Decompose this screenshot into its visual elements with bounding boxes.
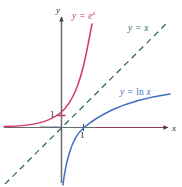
curve-label-log-prefix: y = <box>120 87 136 97</box>
x-axis-label: x <box>172 124 176 133</box>
curve-label-log-argument: x <box>144 87 151 97</box>
curve-label-exponential: y = ex <box>72 10 96 22</box>
curve-label-exponential-exponent: x <box>93 9 96 16</box>
curve-label-linear: y = x <box>128 24 149 34</box>
y-axis-label: y <box>56 6 60 15</box>
y-axis-tick-label-1: 1 <box>50 110 55 119</box>
logarithmic-curve <box>63 94 170 185</box>
exponential-curve <box>4 24 92 127</box>
figure-container: y = ex y = x y = ln x y x 1 1 <box>0 0 182 187</box>
curve-label-logarithmic: y = ln x <box>120 88 151 98</box>
linear-line-y-equals-x <box>5 22 168 184</box>
curve-label-exponential-text: y = e <box>72 11 93 21</box>
curve-label-log-function: ln <box>136 87 144 97</box>
x-axis-tick-label-1: 1 <box>80 131 85 140</box>
plot-canvas <box>0 0 182 187</box>
